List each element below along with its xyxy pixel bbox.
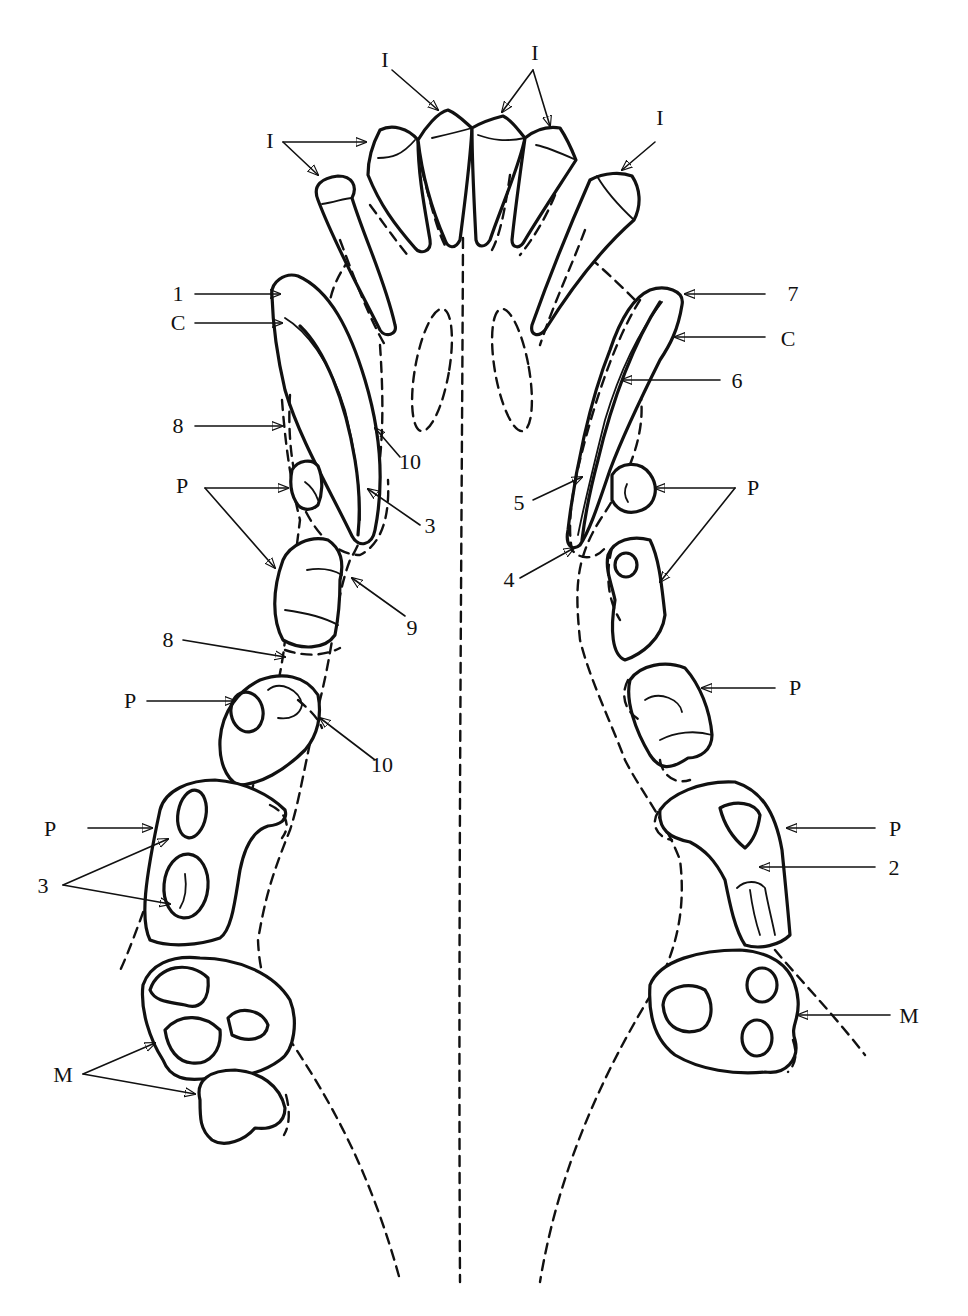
- molars-left: [142, 957, 294, 1143]
- label-canine: C: [781, 328, 796, 350]
- premolar-right-large: [655, 782, 790, 947]
- label-9: 9: [407, 617, 418, 639]
- label-premolar: P: [44, 818, 56, 840]
- label-premolar: P: [124, 690, 136, 712]
- label-incisor: I: [266, 130, 273, 152]
- incisors: [316, 110, 639, 345]
- label-incisor: I: [656, 107, 663, 129]
- premolars-right: [607, 464, 712, 781]
- label-4: 4: [504, 569, 515, 591]
- label-1: 1: [173, 283, 184, 305]
- label-10: 10: [371, 754, 393, 776]
- diagram-svg: [0, 0, 968, 1316]
- label-molar: M: [53, 1064, 73, 1086]
- label-incisor: I: [381, 49, 388, 71]
- molar-right: [650, 950, 799, 1073]
- dental-arch-diagram: I I I I 1 C 8 10 3 P 9 8 P 10 P 3 M 7 C …: [0, 0, 968, 1316]
- label-8: 8: [173, 415, 184, 437]
- premolars-left: [220, 461, 342, 785]
- label-premolar: P: [747, 477, 759, 499]
- label-5: 5: [514, 492, 525, 514]
- label-10: 10: [399, 451, 421, 473]
- label-incisor: I: [531, 42, 538, 64]
- label-premolar: P: [789, 677, 801, 699]
- label-6: 6: [732, 370, 743, 392]
- canine-left: [272, 275, 388, 555]
- label-premolar: P: [889, 818, 901, 840]
- label-premolar: P: [176, 475, 188, 497]
- label-canine: C: [171, 312, 186, 334]
- label-8: 8: [163, 629, 174, 651]
- premolar-left-large: [145, 780, 287, 945]
- label-2: 2: [889, 857, 900, 879]
- label-7: 7: [788, 283, 799, 305]
- label-3: 3: [425, 515, 436, 537]
- label-molar: M: [899, 1005, 919, 1027]
- canine-right: [567, 288, 682, 557]
- label-3: 3: [38, 875, 49, 897]
